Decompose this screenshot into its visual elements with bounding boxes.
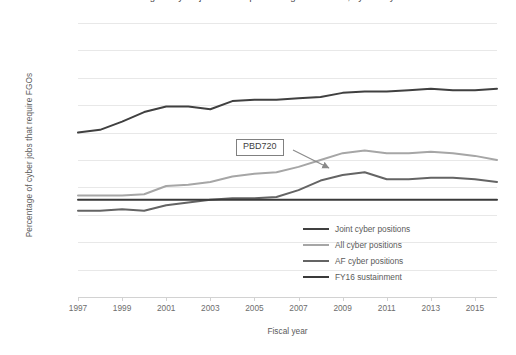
x-tick-label: 2005 [234,303,274,313]
series-line [78,172,497,210]
y-axis-title: Percentage of cyber jobs that require FG… [24,30,34,280]
x-tick-label: 1999 [102,303,142,313]
legend-item[interactable]: All cyber positions [303,237,453,253]
legend-swatch-icon [303,228,329,230]
x-axis-title: Fiscal year [78,326,497,336]
legend-item[interactable]: FY16 sustainment [303,269,453,285]
x-tick-mark [343,297,344,301]
x-tick-label: 2007 [279,303,319,313]
annotation-arrow-icon [292,148,338,174]
chart-title: Percentage of cyber jobs that require fi… [60,0,460,2]
chart-legend: Joint cyber positionsAll cyber positions… [303,221,453,285]
x-tick-label: 2013 [411,303,451,313]
x-tick-mark [431,297,432,301]
x-tick-mark [299,297,300,301]
x-tick-mark [387,297,388,301]
x-tick-label: 2011 [367,303,407,313]
legend-item-label: AF cyber positions [335,256,403,266]
legend-item-label: FY16 sustainment [335,272,402,282]
series-line [78,150,497,195]
legend-swatch-icon [303,244,329,246]
x-tick-mark [475,297,476,301]
x-tick-label: 1997 [58,303,98,313]
x-tick-mark [254,297,255,301]
x-tick-label: 2015 [455,303,495,313]
annotation-pbd720: PBD720 [236,139,284,156]
x-tick-label: 2001 [146,303,186,313]
legend-swatch-icon [303,276,329,278]
series-line [78,89,497,133]
x-axis-baseline [78,297,497,298]
chart-container: Percentage of cyber jobs that require fi… [0,0,516,355]
legend-item[interactable]: Joint cyber positions [303,221,453,237]
x-tick-mark [78,297,79,301]
x-tick-mark [166,297,167,301]
legend-item[interactable]: AF cyber positions [303,253,453,269]
x-tick-mark [210,297,211,301]
legend-swatch-icon [303,260,329,262]
legend-item-label: Joint cyber positions [335,224,410,234]
x-tick-label: 2009 [323,303,363,313]
legend-item-label: All cyber positions [335,240,402,250]
x-tick-mark [122,297,123,301]
x-tick-label: 2003 [190,303,230,313]
